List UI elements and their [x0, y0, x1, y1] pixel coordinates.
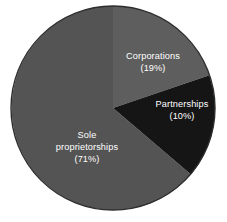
pie-chart-canvas: Corporations (19%) Partnerships (10%) So…: [0, 0, 227, 222]
pie-label-sole-proprietorships-line2: proprietorships: [56, 142, 119, 152]
pie-label-corporations-percent: (19%): [140, 63, 165, 73]
pie-label-corporations-line1: Corporations: [126, 51, 180, 61]
pie-chart: Corporations (19%) Partnerships (10%) So…: [0, 0, 227, 222]
pie-label-partnerships-percent: (10%): [169, 111, 194, 121]
pie-label-sole-proprietorships-line1: Sole: [78, 130, 97, 140]
pie-label-partnerships-line1: Partnerships: [156, 99, 209, 109]
pie-label-sole-proprietorships-percent: (71%): [74, 154, 99, 164]
